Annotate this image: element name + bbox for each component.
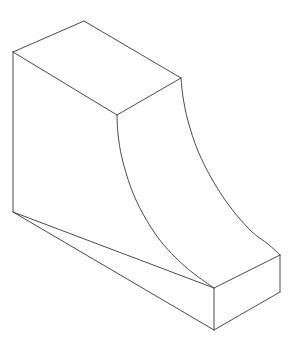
isometric-part-svg <box>0 0 296 348</box>
isometric-drawing-canvas <box>0 0 296 348</box>
solid-faces <box>13 21 280 330</box>
